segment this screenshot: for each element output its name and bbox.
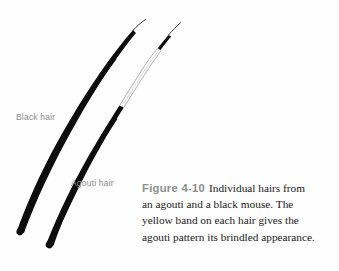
figure-caption: Figure 4-10Individual hairs from an agou…: [142, 180, 334, 245]
caption-text-segment: Individual hairs from: [209, 182, 305, 194]
figure-panel: Black hair Agouti hair Figure 4-10Indivi…: [0, 0, 339, 271]
label-agouti-hair: Agouti hair: [71, 178, 114, 188]
caption-line: Figure 4-10Individual hairs from: [142, 180, 334, 196]
label-black-hair: Black hair: [16, 112, 55, 122]
caption-line: yellow band on each hair gives the: [142, 212, 334, 228]
caption-line: an agouti and a black mouse. The: [142, 196, 334, 212]
caption-line: agouti pattern its brindled appearance.: [142, 229, 334, 245]
figure-number: Figure 4-10: [142, 182, 205, 194]
black-hair-shape: [15, 20, 145, 237]
